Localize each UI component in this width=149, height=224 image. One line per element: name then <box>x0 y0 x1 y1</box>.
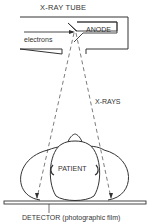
xray-tube-label: X-RAY TUBE <box>40 4 86 12</box>
diagram-drawing <box>0 0 149 224</box>
xrays-label: X-RAYS <box>95 98 121 105</box>
detector-plate <box>4 201 146 204</box>
xray-diagram: X-RAY TUBE ANODE electrons X-RAYS PATIEN… <box>0 0 149 224</box>
electrons-label: electrons <box>24 36 52 43</box>
detector-label: DETECTOR (photographic film) <box>22 214 120 221</box>
patient-label: PATIENT <box>58 165 87 172</box>
anode-label: ANODE <box>86 26 111 33</box>
